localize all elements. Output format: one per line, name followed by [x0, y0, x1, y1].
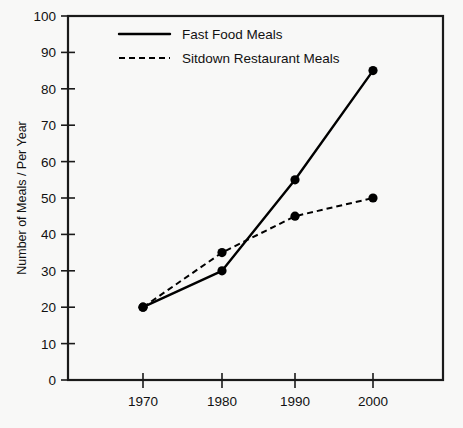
y-tick-label-90: 90 — [41, 45, 56, 60]
chart-legend: Fast Food Meals Sitdown Restaurant Meals — [119, 27, 340, 66]
x-tick-label-1980: 1980 — [207, 394, 237, 409]
line-chart: 100 90 80 70 60 50 40 30 20 10 0 Number … — [0, 0, 463, 428]
x-tick-label-1990: 1990 — [280, 394, 310, 409]
y-axis-title: Number of Meals / Per Year — [15, 121, 29, 275]
y-tick-label-0: 0 — [48, 373, 56, 388]
legend-label-sitdown-restaurant-meals: Sitdown Restaurant Meals — [182, 51, 340, 66]
y-tick-label-40: 40 — [41, 227, 56, 242]
plot-frame — [68, 16, 443, 380]
y-tick-label-60: 60 — [41, 155, 56, 170]
x-tick-label-1970: 1970 — [128, 394, 158, 409]
y-tick-label-30: 30 — [41, 264, 56, 279]
series-markers-fast-food-meals — [138, 66, 377, 312]
y-tick-label-10: 10 — [41, 337, 56, 352]
legend-label-fast-food-meals: Fast Food Meals — [182, 27, 283, 42]
y-tick-label-20: 20 — [41, 300, 56, 315]
x-tick-label-2000: 2000 — [358, 394, 388, 409]
series-line-fast-food-meals — [143, 71, 373, 308]
y-tick-label-50: 50 — [41, 191, 56, 206]
y-tick-label-80: 80 — [41, 82, 56, 97]
y-tick-label-100: 100 — [33, 9, 56, 24]
y-tick-label-70: 70 — [41, 118, 56, 133]
chart-page: 100 90 80 70 60 50 40 30 20 10 0 Number … — [0, 0, 463, 428]
